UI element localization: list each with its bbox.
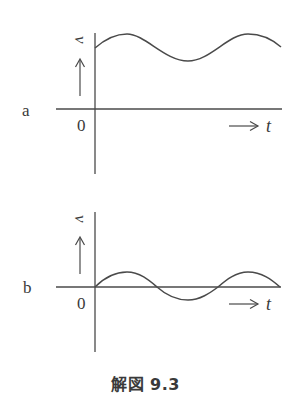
panel-a-waveform xyxy=(95,34,281,61)
figure-caption: 解図 9.3 xyxy=(0,371,291,395)
panel-b: b 0 v t xyxy=(23,212,281,352)
panel-a: a 0 v t xyxy=(22,33,282,174)
panel-b-label: b xyxy=(23,278,32,297)
panel-b-y-arrow-icon xyxy=(76,237,85,274)
panel-b-waveform xyxy=(95,272,280,300)
panel-b-x-arrow-icon xyxy=(229,300,258,309)
figure-9-3: a 0 v t b 0 v t xyxy=(0,0,291,407)
panel-b-origin-label: 0 xyxy=(77,294,86,313)
panel-b-t-label: t xyxy=(266,294,272,314)
panel-a-label: a xyxy=(22,101,30,120)
panel-a-t-label: t xyxy=(266,116,272,136)
panel-a-v-label: v xyxy=(71,36,90,44)
panel-a-x-arrow-icon xyxy=(229,122,258,131)
panel-a-y-arrow-icon xyxy=(76,59,85,96)
panel-b-v-label: v xyxy=(71,215,90,223)
panel-a-origin-label: 0 xyxy=(77,116,86,135)
